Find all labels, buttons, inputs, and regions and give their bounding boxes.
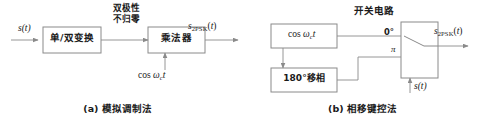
terminal-label-0deg: 0° xyxy=(384,28,394,37)
terminal-label-pi: π xyxy=(391,45,396,54)
figure-2psk-modulation: s(t) 单/双变换 双极性 不归零 乘法器 cos ωct s2PSK(t) … xyxy=(0,0,482,127)
block-label-carrier-oscillator: cos ωct xyxy=(288,30,315,41)
switch-blade xyxy=(404,36,438,46)
panel-b-caption: (b) 相移键控法 xyxy=(280,104,445,114)
panel-b-control-label: s(t) xyxy=(414,82,427,92)
panel-a-carrier-label: cos ωct xyxy=(138,71,165,82)
wire-annotation-bipolar: 双极性 不归零 xyxy=(95,3,157,24)
panel-b-wires xyxy=(283,36,468,93)
block-label-single-double-convert: 单/双变换 xyxy=(43,33,101,43)
block-label-multiplier: 乘法器 xyxy=(148,33,205,43)
panel-a-output-label: s2PSK(t) xyxy=(188,22,216,33)
panel-b-output-label: s2PSK(t) xyxy=(434,27,462,38)
panel-a-caption: (a) 模拟调制法 xyxy=(35,104,200,114)
block-switch-circuit xyxy=(401,22,438,78)
panel-a-wires xyxy=(11,40,238,70)
switch-circuit-title: 开关电路 xyxy=(354,6,394,16)
block-label-180-phase-shift: 180°移相 xyxy=(271,74,337,83)
panel-a-input-label: s(t) xyxy=(18,24,31,34)
